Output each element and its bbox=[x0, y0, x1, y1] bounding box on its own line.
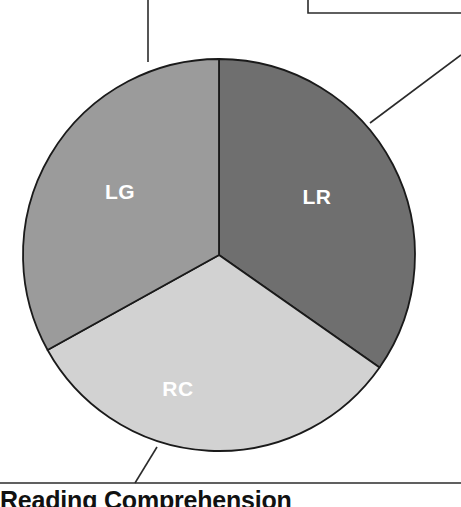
pie-slices bbox=[23, 59, 415, 451]
leader-line-right-lr bbox=[370, 55, 461, 123]
figure-caption: Reading Comprehension bbox=[0, 486, 461, 507]
pie-chart-figure: LR RC LG Reading Comprehension bbox=[0, 0, 461, 507]
pie-slice-label-rc: RC bbox=[162, 377, 193, 400]
callout-box-border bbox=[308, 0, 461, 13]
pie-slice-label-lr: LR bbox=[303, 185, 332, 208]
figure-canvas: LR RC LG bbox=[0, 0, 461, 507]
callout-box-top-right bbox=[308, 0, 461, 13]
pie-slice-label-lg: LG bbox=[105, 180, 135, 203]
leader-line-bottom-rc bbox=[135, 447, 157, 483]
